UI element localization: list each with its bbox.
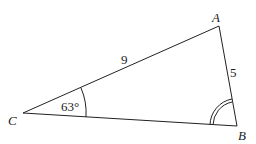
vertex-label-b: B (238, 128, 246, 143)
vertex-label-a: A (211, 10, 220, 25)
side-label-ca: 9 (121, 52, 128, 67)
side-label-ab: 5 (230, 65, 237, 80)
angle-b-arc-inner (213, 102, 232, 125)
vertex-label-c: C (8, 113, 17, 128)
angle-label-c: 63° (61, 99, 79, 114)
triangle-abc (23, 26, 237, 126)
triangle-diagram: A B C 9 5 63° (0, 0, 256, 144)
angle-c-arc (81, 88, 86, 117)
